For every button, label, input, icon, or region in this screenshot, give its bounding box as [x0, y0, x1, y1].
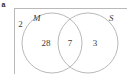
- set-label-m: M: [32, 13, 41, 23]
- set-circle-m: [22, 13, 82, 73]
- region-value-m-only: 28: [42, 38, 52, 48]
- region-value-s-only: 3: [93, 38, 98, 48]
- region-value-m-and-s: 7: [68, 38, 73, 48]
- set-label-s: S: [109, 13, 114, 23]
- outside-count-value: 2: [18, 19, 23, 29]
- venn-diagram-figure: a M S 2 28 7 3: [0, 0, 127, 74]
- part-label: a: [2, 1, 6, 8]
